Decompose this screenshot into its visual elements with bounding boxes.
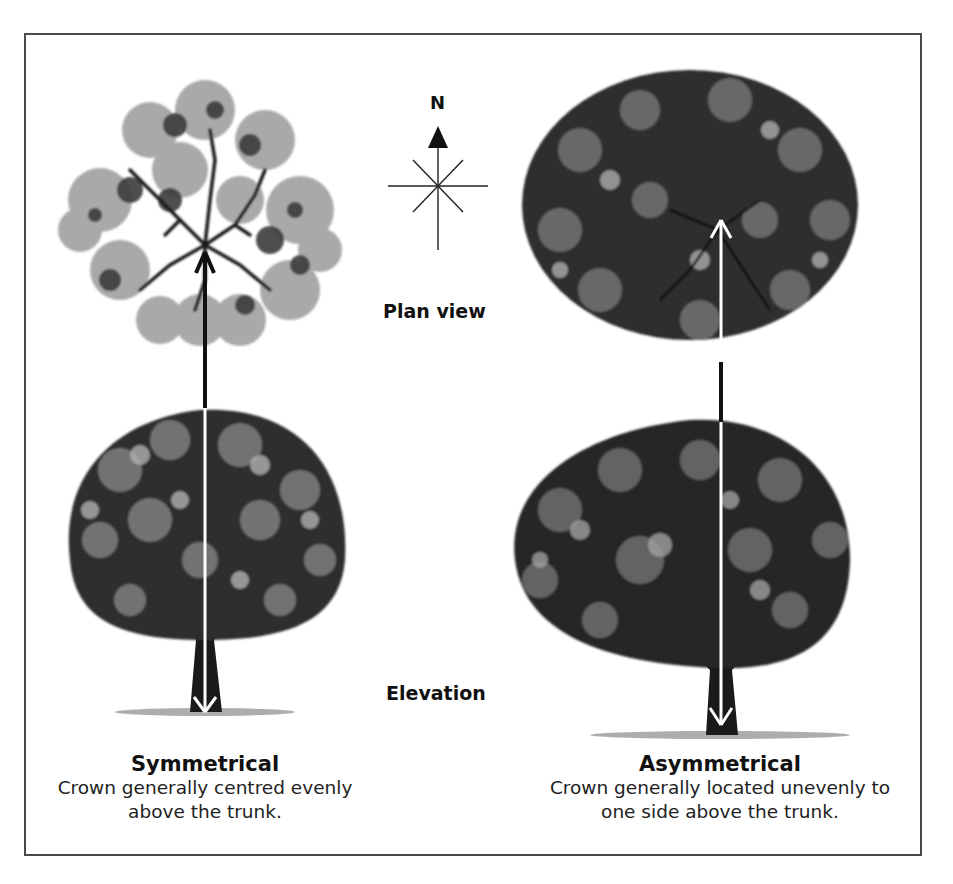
- asymmetrical-title: Asymmetrical: [530, 752, 910, 776]
- asymmetrical-description-line2: one side above the trunk.: [530, 800, 910, 824]
- compass-rose-icon: [388, 126, 488, 250]
- symmetrical-elevation-tree-icon: [69, 410, 346, 716]
- north-label: N: [430, 92, 445, 113]
- symmetrical-plan-view-tree-icon: [58, 80, 342, 346]
- symmetrical-title: Symmetrical: [15, 752, 395, 776]
- elevation-label: Elevation: [386, 682, 486, 704]
- symmetrical-caption: Symmetrical Crown generally centred even…: [15, 752, 395, 824]
- asymmetrical-description-line1: Crown generally located unevenly to: [530, 776, 910, 800]
- asymmetrical-elevation-tree-icon: [514, 420, 850, 739]
- plan-view-label: Plan view: [383, 300, 486, 322]
- asymmetrical-caption: Asymmetrical Crown generally located une…: [530, 752, 910, 824]
- symmetrical-description-line2: above the trunk.: [15, 800, 395, 824]
- asymmetrical-plan-view-tree-icon: [522, 70, 858, 340]
- symmetrical-description-line1: Crown generally centred evenly: [15, 776, 395, 800]
